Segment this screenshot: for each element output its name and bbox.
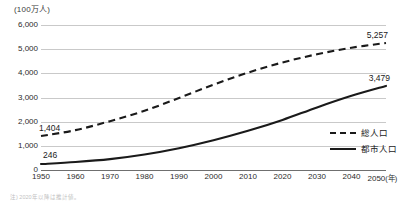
dashed-line-key-icon xyxy=(330,129,356,137)
x-axis-line xyxy=(41,170,386,171)
y-tick-label: 4,000 xyxy=(2,68,38,77)
series-line-total-population xyxy=(41,43,386,136)
label-total-2050: 5,257 xyxy=(367,30,388,40)
x-tick-label: 2020 xyxy=(274,172,292,181)
legend-label-total-population: 総人口 xyxy=(361,129,388,138)
x-tick-label: 2040 xyxy=(343,172,361,181)
y-tick-label: 6,000 xyxy=(2,20,38,29)
label-total-1950: 1,404 xyxy=(39,123,60,133)
chart-footnote: 注) 2020年以降は推計値。 xyxy=(10,193,80,201)
y-tick-label: 2,000 xyxy=(2,117,38,126)
x-tick-label: 1990 xyxy=(170,172,188,181)
x-tick-label: 1970 xyxy=(101,172,119,181)
chart-legend: 総人口 都市人口 xyxy=(330,125,397,157)
legend-item-total-population: 総人口 xyxy=(330,125,397,141)
label-urban-2050: 3,479 xyxy=(369,73,390,83)
x-tick-label: 1960 xyxy=(67,172,85,181)
x-tick-label: 2000 xyxy=(205,172,223,181)
label-urban-1950: 246 xyxy=(43,150,57,160)
y-axis-tick-labels: 01,0002,0003,0004,0005,0006,000 xyxy=(0,25,38,170)
y-tick-label: 1,000 xyxy=(2,141,38,150)
x-tick-label: 2050(年) xyxy=(368,172,398,183)
population-line-chart: (100万人) 01,0002,0003,0004,0005,0006,000 … xyxy=(0,0,419,201)
y-tick-label: 3,000 xyxy=(2,93,38,102)
y-tick-label: 5,000 xyxy=(2,44,38,53)
x-tick-label: 2010 xyxy=(239,172,257,181)
x-tick-label: 1980 xyxy=(136,172,154,181)
legend-item-urban-population: 都市人口 xyxy=(330,141,397,157)
x-axis-tick-labels: 1950196019701980199020002010202020302040… xyxy=(41,172,386,186)
x-tick-label: 1950 xyxy=(32,172,50,181)
legend-label-urban-population: 都市人口 xyxy=(361,145,397,154)
y-axis-unit-label: (100万人) xyxy=(14,3,50,14)
x-tick-label: 2030 xyxy=(308,172,326,181)
solid-line-key-icon xyxy=(330,145,356,153)
